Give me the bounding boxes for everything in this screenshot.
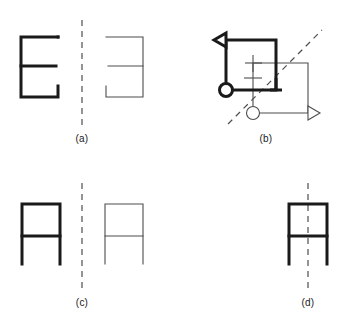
symmetry-figure	[0, 0, 352, 323]
panel-label-b: (b)	[246, 133, 286, 144]
panel-label-c: (c)	[62, 297, 102, 308]
panel-label-a: (a)	[62, 133, 102, 144]
figure-background	[0, 0, 352, 323]
panel-label-d: (d)	[288, 297, 328, 308]
